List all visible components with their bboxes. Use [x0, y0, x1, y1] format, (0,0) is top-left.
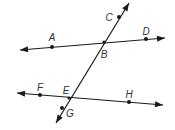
arrowhead-icon	[56, 115, 63, 123]
label-f: F	[37, 82, 44, 93]
line-AD	[20, 36, 165, 53]
lines-layer	[17, 3, 165, 123]
transversal-CG-segment	[56, 3, 129, 123]
label-c: C	[105, 12, 113, 23]
point-c	[117, 15, 121, 19]
label-h: H	[125, 89, 133, 100]
line-FH	[17, 91, 163, 108]
label-d: D	[142, 26, 149, 37]
label-g: G	[66, 108, 74, 119]
line-AD-segment	[20, 38, 165, 50]
label-e: E	[63, 85, 70, 96]
label-a: A	[48, 32, 56, 43]
point-a	[50, 45, 54, 49]
arrowhead-icon	[122, 3, 129, 11]
intersection-point-b	[102, 40, 105, 43]
point-f	[38, 93, 42, 97]
transversal-CG	[56, 3, 129, 123]
point-g	[60, 106, 64, 110]
geometry-diagram: ABCDEFGH	[0, 0, 175, 130]
intersection-point-e	[67, 96, 70, 99]
label-b: B	[101, 49, 108, 60]
point-d	[144, 37, 148, 41]
point-h	[127, 100, 131, 104]
